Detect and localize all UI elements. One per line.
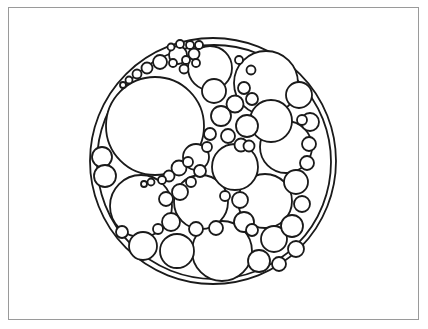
packed-circle (120, 82, 126, 88)
packed-circle (92, 147, 112, 167)
packed-circle (248, 250, 270, 272)
packed-circle (300, 156, 314, 170)
packed-circle (126, 77, 133, 84)
packed-circle (160, 234, 194, 268)
packed-circle (192, 59, 200, 67)
packed-circle (182, 56, 190, 64)
packed-circle (281, 215, 303, 237)
packed-circle (172, 184, 188, 200)
packed-circle (180, 65, 189, 74)
packed-circle (142, 63, 153, 74)
packed-circle (246, 93, 258, 105)
packed-circle (168, 44, 175, 51)
packed-circle (94, 165, 116, 187)
packed-circle (297, 115, 307, 125)
circle-packing-figure (0, 0, 428, 329)
packed-circle (227, 96, 244, 113)
packed-circle (286, 82, 312, 108)
circle-group (90, 38, 336, 284)
packed-circle (153, 224, 163, 234)
packed-circle (153, 55, 167, 69)
packed-circle (232, 192, 248, 208)
packed-circle (169, 59, 177, 67)
packed-circle (186, 41, 194, 49)
packed-circle (189, 222, 203, 236)
packed-circle (202, 142, 212, 152)
packed-circle (288, 241, 304, 257)
packed-circle (133, 70, 142, 79)
packed-circle (129, 232, 157, 260)
packed-circle (284, 170, 308, 194)
packed-circle (220, 191, 230, 201)
packed-circle (116, 226, 128, 238)
packed-circle (148, 179, 155, 186)
packed-circle (246, 224, 258, 236)
packed-circle (272, 257, 286, 271)
packed-circle (194, 165, 206, 177)
packed-circle (221, 129, 235, 143)
packed-circle (183, 157, 193, 167)
packed-circle (141, 181, 147, 187)
packed-circle (244, 141, 255, 152)
packed-circle (236, 115, 258, 137)
screenshot-page (0, 0, 428, 329)
packed-circle (176, 40, 184, 48)
packed-circle (202, 79, 226, 103)
packed-circle (162, 213, 180, 231)
packed-circle (159, 192, 173, 206)
packed-circle (186, 177, 196, 187)
packed-circle (195, 41, 203, 49)
packed-circle (238, 82, 250, 94)
packed-circle (204, 128, 216, 140)
packed-circle (247, 66, 256, 75)
packed-circle (235, 56, 243, 64)
packed-circle (302, 137, 316, 151)
packed-circle (209, 221, 223, 235)
packed-circle (294, 196, 310, 212)
packed-circle (158, 176, 166, 184)
